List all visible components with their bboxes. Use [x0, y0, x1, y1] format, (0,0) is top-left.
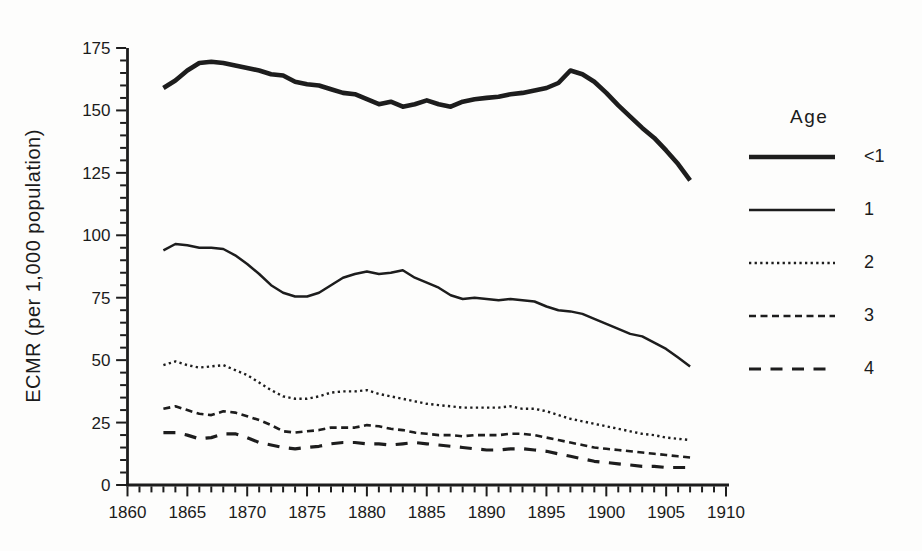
- x-tick-label: 1860: [109, 503, 147, 522]
- y-tick-label: 175: [82, 39, 110, 58]
- legend-line-sample-age-1: [746, 200, 838, 220]
- legend-item-label: 2: [864, 252, 874, 273]
- x-tick-label: 1885: [408, 503, 446, 522]
- legend-line-sample-age-2: [746, 253, 838, 273]
- x-tick-label: 1910: [707, 503, 745, 522]
- legend-item: 2: [746, 236, 916, 289]
- legend-line-sample-age-4: [746, 359, 838, 379]
- x-tick-label: 1905: [647, 503, 685, 522]
- x-tick-label: 1870: [228, 503, 266, 522]
- x-tick-label: 1895: [528, 503, 566, 522]
- series-line-age-3: [163, 406, 690, 457]
- legend-item-label: 1: [864, 199, 874, 220]
- series-line-age-1: [163, 244, 690, 366]
- legend-item-label: <1: [864, 146, 885, 167]
- y-tick-label: 0: [101, 476, 110, 495]
- y-tick-label: 100: [82, 226, 110, 245]
- legend-item: 1: [746, 183, 916, 236]
- legend-item-label: 3: [864, 305, 874, 326]
- series-line-age-2: [163, 361, 690, 440]
- series-line-under-1: [163, 62, 690, 181]
- legend-item: 4: [746, 342, 916, 395]
- legend-line-sample-under-1: [746, 147, 838, 167]
- x-tick-label: 1875: [288, 503, 326, 522]
- legend-item: <1: [746, 130, 916, 183]
- y-tick-label: 25: [92, 414, 111, 433]
- legend: Age <1 1 2 3: [746, 106, 916, 395]
- y-tick-label: 150: [82, 101, 110, 120]
- y-tick-label: 50: [92, 351, 111, 370]
- legend-item: 3: [746, 289, 916, 342]
- legend-line-sample-age-3: [746, 306, 838, 326]
- x-tick-label: 1890: [468, 503, 506, 522]
- legend-item-label: 4: [864, 358, 874, 379]
- legend-title: Age: [746, 106, 916, 130]
- x-tick-label: 1880: [348, 503, 386, 522]
- y-tick-label: 75: [92, 289, 111, 308]
- y-tick-label: 125: [82, 164, 110, 183]
- x-tick-label: 1865: [168, 503, 206, 522]
- series-line-age-4: [163, 433, 690, 468]
- x-tick-label: 1900: [587, 503, 625, 522]
- chart-figure: ECMR (per 1,000 population) 025507510012…: [0, 0, 922, 551]
